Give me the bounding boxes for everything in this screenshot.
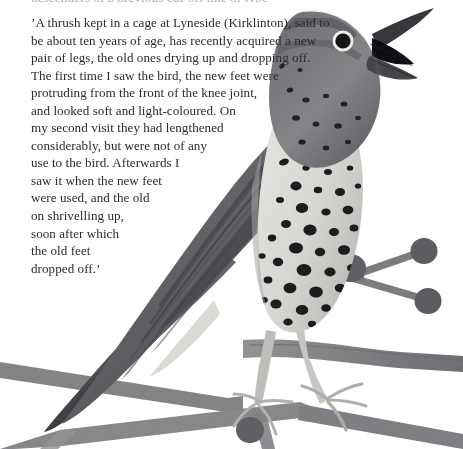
quote-line: considerably, but were not of any — [31, 137, 431, 155]
quote-line: the old feet — [31, 242, 431, 260]
quote-line: my second visit they had lengthened — [31, 119, 431, 137]
illustrated-page: descenders of a previous cut-off line of… — [0, 0, 463, 449]
quote-line: and looked soft and light-coloured. On — [31, 102, 431, 120]
quote-line: protruding from the front of the knee jo… — [31, 84, 431, 102]
quote-line: ’A thrush kept in a cage at Lyneside (Ki… — [31, 14, 431, 32]
quote-line: pair of legs, the old ones drying up and… — [31, 49, 431, 67]
quote-line: use to the bird. Afterwards I — [31, 154, 431, 172]
bud — [236, 417, 264, 443]
quote-line: were used, and the old — [31, 189, 431, 207]
branch-lower-right — [298, 404, 463, 449]
quote-line: The first time I saw the bird, the new f… — [31, 67, 431, 85]
quote-line: be about ten years of age, has recently … — [31, 32, 431, 50]
bud — [415, 288, 442, 314]
quote-line: dropped off.’ — [31, 260, 431, 278]
leg-front — [296, 330, 328, 404]
quote-line: soon after which — [31, 225, 431, 243]
quote-line: saw it when the new feet — [31, 172, 431, 190]
quote-line: on shrivelling up, — [31, 207, 431, 225]
quotation-block: ’A thrush kept in a cage at Lyneside (Ki… — [31, 14, 431, 277]
